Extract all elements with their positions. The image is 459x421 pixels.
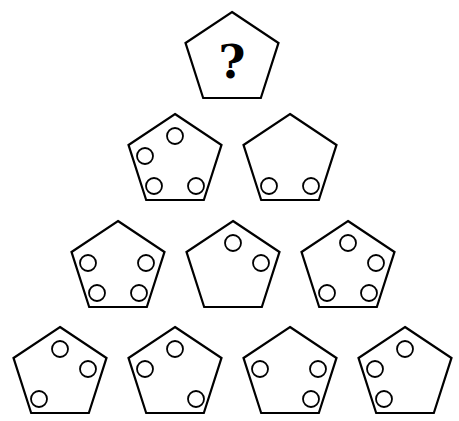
circle-icon-upper-left: [367, 361, 383, 377]
circle-icon-top: [167, 128, 183, 144]
pentagon-outline: [244, 114, 337, 200]
circle-icon-top: [340, 235, 356, 251]
circle-icon-bottom-left: [146, 178, 162, 194]
pentagon-pyramid-puzzle: ?: [0, 0, 459, 421]
circle-icon-upper-right: [253, 255, 269, 271]
circle-icon-bottom-left: [376, 391, 392, 407]
pentagon-figure: [359, 327, 452, 413]
pentagon-figure: [244, 114, 337, 200]
circle-icon-upper-left: [137, 361, 153, 377]
circle-icon-upper-right: [80, 361, 96, 377]
circle-icon-top: [52, 341, 68, 357]
circle-icon-upper-left: [80, 255, 96, 271]
circle-icon-bottom-right: [361, 285, 377, 301]
circle-icon-bottom-right: [188, 178, 204, 194]
circle-icon-bottom-left: [31, 391, 47, 407]
question-pentagon: ?: [186, 12, 279, 98]
circle-icon-upper-left: [252, 361, 268, 377]
circle-icon-upper-right: [310, 361, 326, 377]
pentagon-figure: [14, 327, 107, 413]
circle-icon-bottom-left: [319, 285, 335, 301]
circle-icon-upper-right: [138, 255, 154, 271]
circle-icon-upper-right: [368, 255, 384, 271]
circle-icon-bottom-right: [303, 391, 319, 407]
circle-icon-bottom-right: [131, 285, 147, 301]
circle-icon-top: [397, 341, 413, 357]
circle-icon-bottom-left: [261, 178, 277, 194]
question-mark: ?: [219, 35, 246, 89]
circle-icon-upper-left: [137, 148, 153, 164]
pentagon-figure: [244, 327, 337, 413]
pentagon-figure: [302, 221, 395, 307]
circle-icon-bottom-right: [303, 178, 319, 194]
circle-icon-bottom-left: [89, 285, 105, 301]
circle-icon-top: [167, 341, 183, 357]
pentagon-figure: [187, 221, 280, 307]
pentagon-figure: [129, 327, 222, 413]
pentagon-figure: [129, 114, 222, 200]
circle-icon-bottom-right: [188, 391, 204, 407]
pentagon-figure: [72, 221, 165, 307]
circle-icon-top: [225, 235, 241, 251]
